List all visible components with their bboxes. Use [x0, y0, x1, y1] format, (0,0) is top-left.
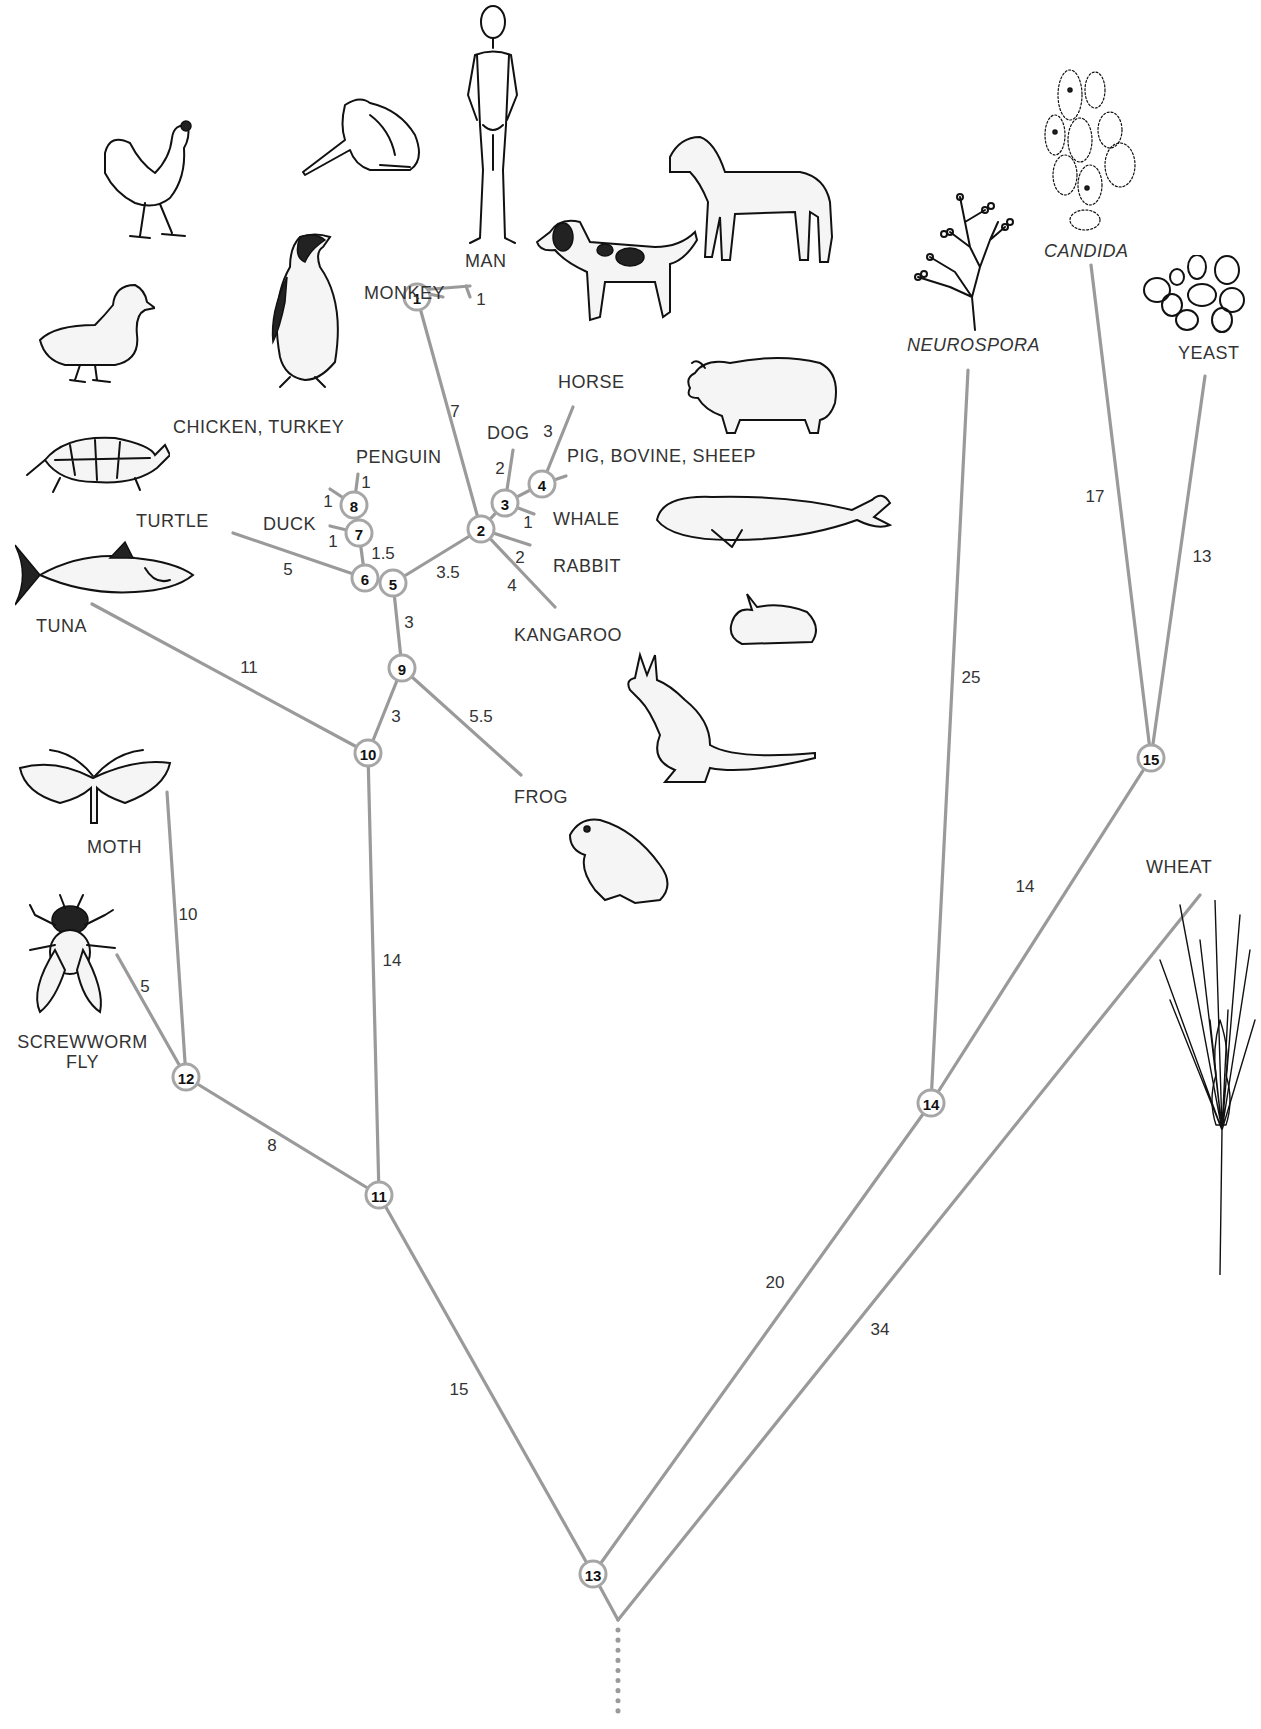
branch-11-12 [186, 1077, 379, 1195]
len-13-11: 15 [450, 1380, 469, 1399]
svg-text:14: 14 [923, 1096, 940, 1113]
len-root-wheat: 34 [871, 1320, 890, 1339]
svg-text:11: 11 [371, 1188, 387, 1205]
kangaroo-illustration [625, 650, 817, 785]
label-kangaroo: KANGAROO [514, 626, 622, 644]
len-10-tuna: 11 [240, 658, 258, 677]
dog-illustration [535, 212, 700, 327]
len-7-duck: 1 [328, 532, 337, 551]
branch-14-15 [931, 758, 1151, 1103]
node-11: 11 [366, 1182, 392, 1208]
pig-illustration [680, 348, 840, 436]
branch-11-10 [368, 753, 379, 1195]
label-screwworm: SCREWWORM [10, 1033, 155, 1051]
label-wheat: WHEAT [1146, 858, 1212, 876]
len-11-12: 8 [267, 1136, 276, 1155]
branch-14-neurospora [931, 370, 968, 1103]
whale-illustration [652, 485, 892, 550]
branch-12-moth [167, 792, 186, 1077]
node-6: 6 [352, 565, 378, 591]
svg-text:9: 9 [398, 661, 406, 678]
len-9-5: 3 [404, 613, 413, 632]
nodes: 1 2 3 4 5 6 7 8 9 10 11 12 13 14 15 [173, 284, 1164, 1587]
len-14-neurospora: 25 [962, 668, 981, 687]
label-neurospora: NEUROSPORA [907, 336, 1040, 354]
man-illustration [455, 0, 530, 248]
monkey-illustration [300, 95, 430, 180]
label-screwworm-fly: SCREWWORM FLY [10, 1033, 155, 1071]
svg-text:4: 4 [538, 477, 547, 494]
len-11-10: 14 [383, 951, 402, 970]
node-4: 4 [529, 471, 555, 497]
neurospora-illustration [910, 192, 1020, 332]
svg-text:5: 5 [389, 576, 397, 593]
len-3-dog: 2 [495, 459, 504, 478]
node-13: 13 [580, 1561, 606, 1587]
len-4-horse: 3 [543, 422, 552, 441]
duck-illustration [35, 280, 155, 385]
branch-9-frog [402, 668, 521, 775]
label-fly: FLY [10, 1053, 155, 1071]
len-6-turtle: 5 [283, 560, 292, 579]
svg-text:10: 10 [360, 746, 377, 763]
branch-2-1 [417, 297, 481, 529]
len-15-yeast: 13 [1193, 547, 1212, 566]
len-12-moth: 10 [179, 905, 198, 924]
branches [92, 265, 1205, 1720]
label-candida: CANDIDA [1044, 242, 1129, 260]
node-7: 7 [346, 520, 372, 546]
wheat-illustration [1150, 900, 1260, 1275]
node-10: 10 [355, 740, 381, 766]
len-10-9: 3 [391, 707, 400, 726]
len-2-kangaroo: 4 [507, 576, 516, 595]
svg-text:6: 6 [361, 571, 369, 588]
len-6-7: 1.5 [371, 544, 395, 563]
label-monkey: MONKEY [364, 284, 445, 302]
len-2-rabbit: 2 [515, 548, 524, 567]
label-penguin: PENGUIN [356, 448, 442, 466]
len-1-man: 1 [476, 290, 485, 309]
yeast-illustration [1142, 255, 1247, 335]
node-15: 15 [1138, 745, 1164, 771]
label-rabbit: RABBIT [553, 557, 621, 575]
len-15-candida: 17 [1086, 487, 1105, 506]
len-14-15: 14 [1016, 877, 1035, 896]
len-8-penguin: 1 [361, 473, 370, 492]
branch-root-wheat [618, 895, 1200, 1620]
tuna-illustration [15, 540, 195, 610]
frog-illustration [565, 815, 675, 907]
candida-illustration [1025, 60, 1150, 235]
node-2: 2 [468, 516, 494, 542]
node-5: 5 [380, 570, 406, 596]
label-man: MAN [465, 252, 507, 270]
len-3-whale: 1 [523, 513, 532, 532]
label-yeast: YEAST [1178, 344, 1240, 362]
node-12: 12 [173, 1064, 199, 1090]
screwworm-fly-illustration [25, 890, 120, 1020]
turtle-illustration [25, 430, 170, 495]
svg-text:7: 7 [355, 526, 363, 543]
rabbit-illustration [722, 592, 822, 650]
penguin-illustration [265, 232, 350, 390]
branch-10-tuna [92, 604, 368, 753]
label-turtle: TURTLE [136, 512, 209, 530]
chicken-illustration [100, 118, 215, 246]
len-13-14: 20 [766, 1273, 785, 1292]
branch-15-yeast [1151, 376, 1205, 758]
svg-text:13: 13 [585, 1567, 602, 1584]
moth-illustration [15, 748, 173, 828]
len-5-2: 3.5 [436, 563, 460, 582]
node-14: 14 [918, 1090, 944, 1116]
branch-13-11 [379, 1195, 593, 1574]
label-whale: WHALE [553, 510, 620, 528]
len-2-1: 7 [450, 402, 459, 421]
node-9: 9 [389, 655, 415, 681]
label-horse: HORSE [558, 373, 625, 391]
svg-text:2: 2 [477, 522, 485, 539]
label-duck: DUCK [263, 515, 316, 533]
label-dog: DOG [487, 424, 530, 442]
len-12-fly: 5 [140, 977, 149, 996]
label-pig-bovine-sheep: PIG, BOVINE, SHEEP [567, 447, 756, 465]
node-8: 8 [341, 492, 367, 518]
label-chicken-turkey: CHICKEN, TURKEY [173, 418, 344, 436]
